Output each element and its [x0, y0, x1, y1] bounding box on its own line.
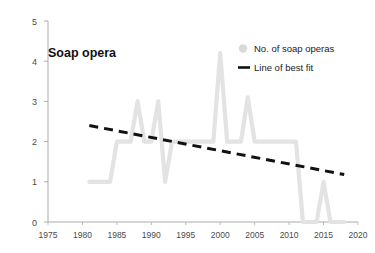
- chart-title: Soap opera: [48, 46, 117, 60]
- x-tick-label: 1975: [39, 230, 58, 240]
- x-tick-label: 2015: [314, 230, 333, 240]
- y-tick-label: 0: [32, 218, 37, 228]
- x-tick-label: 2010: [280, 230, 299, 240]
- x-tick-label: 1995: [176, 230, 195, 240]
- chart-container: 012345 197519801985199019952000200520102…: [0, 0, 375, 253]
- legend-label-soap-operas: No. of soap operas: [254, 43, 335, 54]
- y-tick-label: 3: [32, 97, 37, 107]
- y-tick-label: 5: [32, 17, 37, 27]
- soap-opera-line-chart: 012345 197519801985199019952000200520102…: [0, 0, 375, 253]
- x-tick-label: 1985: [107, 230, 126, 240]
- y-tick-label: 4: [32, 57, 37, 67]
- x-tick-label: 2005: [245, 230, 264, 240]
- y-tick-label: 1: [32, 177, 37, 187]
- x-tick-label: 1990: [142, 230, 161, 240]
- legend-dot-icon: [239, 44, 247, 52]
- x-tick-label: 2000: [211, 230, 230, 240]
- y-tick-label: 2: [32, 137, 37, 147]
- x-tick-label: 2020: [349, 230, 368, 240]
- x-tick-label: 1980: [73, 230, 92, 240]
- legend-label-best-fit: Line of best fit: [254, 62, 314, 73]
